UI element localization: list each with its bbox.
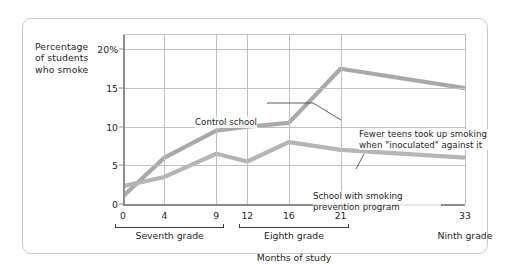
gridline-vertical <box>341 34 342 204</box>
x-tick-label: 12 <box>241 210 253 221</box>
x-axis-group-label: Ninth grade <box>425 230 505 241</box>
x-axis-group-bracket <box>239 224 348 228</box>
y-axis-spine <box>123 34 125 204</box>
x-tick-label: 9 <box>213 210 219 221</box>
x-tick-label: 33 <box>459 210 471 221</box>
plot-area: 0491216213305101520%Seventh gradeEighth … <box>123 34 465 204</box>
y-tick-label: 0 <box>112 199 118 210</box>
annotation-inoculated: Fewer teens took up smoking when "inocul… <box>359 129 499 150</box>
gridline-vertical <box>465 34 466 204</box>
y-tick-label: 5 <box>112 160 118 171</box>
annotation-control-school: Control school <box>195 117 257 128</box>
y-axis-title-line-3: who smoke <box>35 64 115 75</box>
gridline-horizontal <box>123 49 465 50</box>
annotation-prevention-program: School with smoking prevention program <box>313 191 441 212</box>
x-tick-label: 0 <box>120 210 126 221</box>
x-axis-title: Months of study <box>123 252 465 263</box>
y-tick-label: 15 <box>106 83 118 94</box>
gridline-vertical <box>164 34 165 204</box>
x-axis-group: Eighth grade <box>239 224 348 246</box>
gridline-horizontal <box>123 165 465 166</box>
y-tick-label: 10 <box>106 121 118 132</box>
x-tick-label: 4 <box>161 210 167 221</box>
x-axis-group-label: Seventh grade <box>115 230 224 241</box>
x-axis-group: Seventh grade <box>115 224 224 246</box>
y-tick-label: 20% <box>97 44 118 55</box>
gridline-horizontal <box>123 88 465 89</box>
x-tick-label: 16 <box>283 210 295 221</box>
plot-grid: 0491216213305101520%Seventh gradeEighth … <box>123 34 465 204</box>
plot-top-border <box>123 34 465 35</box>
x-axis-group: Ninth grade <box>425 224 505 246</box>
x-axis-group-bracket <box>115 224 224 228</box>
gridline-horizontal <box>123 127 465 128</box>
gridline-vertical <box>289 34 290 204</box>
x-axis-group-label: Eighth grade <box>239 230 348 241</box>
chart-figure: Percentage of students who smoke 0491216… <box>22 18 488 254</box>
